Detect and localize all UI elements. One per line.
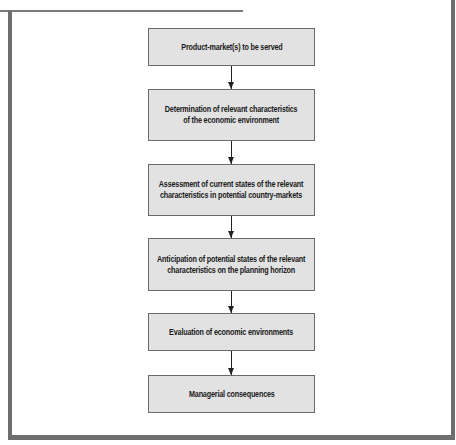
top-rule [0,10,243,12]
step-managerial-consequences: Managerial consequences [148,375,315,413]
arrow-down-icon [231,216,232,238]
step-label-line: Managerial consequences [189,389,275,400]
arrow-down-icon [231,291,232,313]
frame-bottom-border [8,435,455,440]
step-determination-characteristics: Determination of relevant characteristic… [148,89,315,141]
step-label-line: Evaluation of economic environments [169,327,293,338]
step-label-line: Determination of relevant characteristic… [165,104,298,115]
arrow-down-icon [231,351,232,375]
step-label-line: of the economic environment [165,115,298,126]
frame-left-border [8,11,12,440]
step-label-line: Anticipation of potential states of the … [157,254,305,265]
step-label-line: characteristics on the planning horizon [157,265,305,276]
step-label-line: Assessment of current states of the rele… [159,179,304,190]
step-anticipation-potential-states: Anticipation of potential states of the … [148,238,315,291]
arrow-down-icon [231,141,232,164]
step-assessment-current-states: Assessment of current states of the rele… [148,164,315,216]
step-product-markets: Product-market(s) to be served [148,28,315,66]
step-label-line: characteristics in potential country-mar… [159,190,304,201]
step-label-line: Product-market(s) to be served [181,42,282,53]
arrow-down-icon [231,66,232,89]
frame-right-border [451,0,455,440]
step-evaluation-economic-environments: Evaluation of economic environments [148,313,315,351]
